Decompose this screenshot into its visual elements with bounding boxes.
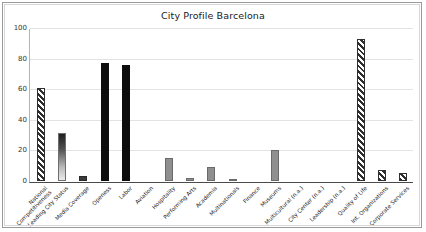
- x-axis-label-line: Aviation: [134, 185, 154, 205]
- x-axis-label: Openess: [91, 185, 113, 207]
- x-axis-labels: NationalCompetitivenessLeading City Stat…: [29, 185, 413, 232]
- x-axis-label: Labor: [118, 185, 134, 201]
- bar: [165, 158, 173, 181]
- x-axis-label-line: Openess: [91, 185, 113, 207]
- gridline: [30, 28, 413, 29]
- bar: [101, 63, 109, 181]
- x-axis-label-line: Finance: [242, 185, 262, 205]
- x-axis-label-line: Multicultural (n.a.): [263, 185, 304, 226]
- y-tick-label: 0: [23, 177, 27, 185]
- y-tick-label: 80: [18, 55, 27, 63]
- chart-frame: City Profile Barcelona 020406080100 Nati…: [2, 2, 422, 228]
- x-axis-label: Corporate Services: [369, 185, 411, 227]
- y-tick: 20: [30, 150, 31, 151]
- y-tick-label: 60: [18, 85, 27, 93]
- x-axis-label: Aviation: [134, 185, 154, 205]
- y-tick-label: 100: [14, 24, 27, 32]
- gridline: [30, 150, 413, 151]
- bar: [357, 39, 365, 181]
- y-tick: 0: [30, 181, 31, 182]
- y-tick: 40: [30, 120, 31, 121]
- y-tick: 100: [30, 28, 31, 29]
- bar: [58, 133, 66, 181]
- bar: [229, 179, 237, 181]
- y-tick-label: 40: [18, 116, 27, 124]
- bar: [186, 178, 194, 181]
- y-tick: 80: [30, 59, 31, 60]
- bar: [399, 173, 407, 181]
- gridline: [30, 89, 413, 90]
- x-axis-label-line: Labor: [118, 185, 134, 201]
- bar: [79, 176, 87, 181]
- bar: [122, 65, 130, 181]
- x-axis-label: Finance: [242, 185, 262, 205]
- gridline: [30, 120, 413, 121]
- x-axis-label-line: Corporate Services: [369, 185, 411, 227]
- bar: [207, 167, 215, 181]
- y-tick: 60: [30, 89, 31, 90]
- bar: [271, 150, 279, 181]
- chart-title: City Profile Barcelona: [3, 10, 423, 21]
- bar: [378, 170, 386, 181]
- y-tick-label: 20: [18, 146, 27, 154]
- bar: [37, 88, 45, 181]
- x-axis-label: Multicultural (n.a.): [263, 185, 304, 226]
- plot-area: 020406080100: [29, 29, 413, 183]
- x-axis-label-line: Int. Organizations: [350, 185, 390, 225]
- gridline: [30, 59, 413, 60]
- x-axis-label: Int. Organizations: [350, 185, 390, 225]
